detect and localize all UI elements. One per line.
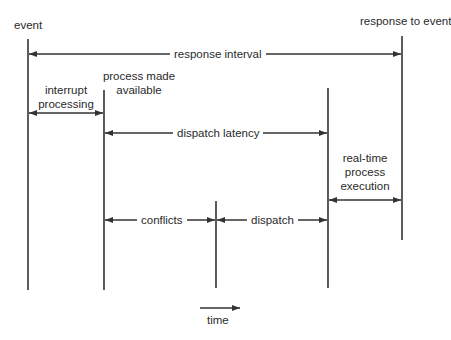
dispatch-latency-label: dispatch latency [173,126,263,140]
response-interval-label: response interval [170,47,266,61]
process-made-available-label: process made available [100,69,178,97]
response-to-event-label: response to event [360,14,451,28]
rt-line-3: execution [330,179,400,193]
rt-line-2: process [330,165,400,179]
event-label: event [14,18,42,32]
time-label: time [207,313,229,327]
rt-line-1: real-time [330,151,400,165]
interrupt-line-2: processing [30,97,102,111]
interrupt-processing-label: interrupt processing [30,83,102,111]
process-line-2: available [100,83,178,97]
interrupt-line-1: interrupt [30,83,102,97]
real-time-execution-label: real-time process execution [330,151,400,193]
process-line-1: process made [100,69,178,83]
dispatch-label: dispatch [247,213,298,227]
conflicts-label: conflicts [137,213,187,227]
